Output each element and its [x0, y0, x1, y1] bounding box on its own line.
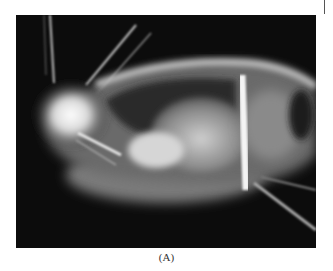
- page-edge-mark: [324, 0, 325, 14]
- shoulder-joint: [31, 79, 111, 151]
- radiograph-figure: [16, 15, 316, 248]
- radiograph-image: [16, 15, 316, 248]
- figure-caption: (A): [0, 251, 333, 263]
- vertical-bone: [242, 75, 246, 190]
